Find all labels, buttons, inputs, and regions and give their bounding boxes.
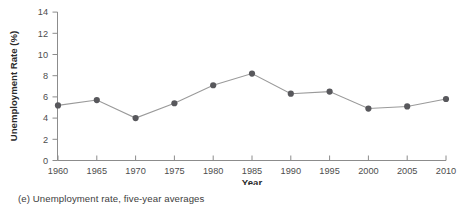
y-axis-ticks: 0 2 4 6 8 10 12 14 <box>38 7 58 165</box>
x-tick-label-2010: 2010 <box>436 166 456 176</box>
chart-plot-area: Unemployment Rate (%) 0 2 4 6 8 10 12 <box>0 0 476 185</box>
data-point-2005 <box>404 103 410 109</box>
y-tick-label-8: 8 <box>43 71 48 81</box>
data-markers-unemployment <box>55 70 449 121</box>
data-point-2010 <box>443 96 449 102</box>
y-tick-label-0: 0 <box>43 156 48 166</box>
data-point-1965 <box>94 97 100 103</box>
y-tick-label-4: 4 <box>43 113 48 123</box>
x-tick-label-1960: 1960 <box>48 166 68 176</box>
data-point-1990 <box>288 91 294 97</box>
x-tick-label-1970: 1970 <box>125 166 145 176</box>
x-axis-title: Year <box>242 177 263 185</box>
x-tick-label-1990: 1990 <box>281 166 301 176</box>
x-tick-label-1975: 1975 <box>164 166 184 176</box>
x-tick-label-1965: 1965 <box>87 166 107 176</box>
figure-unemployment-rate: Unemployment Rate (%) 0 2 4 6 8 10 12 <box>0 0 476 216</box>
data-point-1980 <box>210 82 216 88</box>
y-tick-label-6: 6 <box>43 92 48 102</box>
line-chart-svg: Unemployment Rate (%) 0 2 4 6 8 10 12 <box>0 0 476 185</box>
data-point-1960 <box>55 102 61 108</box>
x-tick-label-2000: 2000 <box>358 166 378 176</box>
x-tick-label-1985: 1985 <box>242 166 262 176</box>
y-tick-label-10: 10 <box>38 50 48 60</box>
data-point-2000 <box>365 105 371 111</box>
x-tick-label-1995: 1995 <box>319 166 339 176</box>
y-axis-title: Unemployment Rate (%) <box>8 31 19 141</box>
x-axis-ticks: 1960 1965 1970 1975 1980 1985 1990 1995 … <box>48 156 456 177</box>
y-tick-label-2: 2 <box>43 135 48 145</box>
y-tick-label-14: 14 <box>38 7 48 17</box>
data-line-unemployment <box>58 74 446 119</box>
data-point-1970 <box>133 115 139 121</box>
data-point-1975 <box>171 100 177 106</box>
data-point-1995 <box>327 89 333 95</box>
figure-caption: (e) Unemployment rate, five-year average… <box>18 193 204 204</box>
y-tick-label-12: 12 <box>38 29 48 39</box>
data-point-1985 <box>249 70 255 76</box>
x-tick-label-1980: 1980 <box>203 166 223 176</box>
x-tick-label-2005: 2005 <box>397 166 417 176</box>
